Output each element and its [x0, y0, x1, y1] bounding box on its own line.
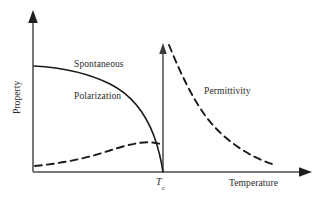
- tc-symbol: T: [156, 176, 162, 187]
- x-axis-arrowhead: [299, 167, 312, 177]
- curie-temperature-line: [159, 43, 167, 172]
- y-axis-arrowhead: [28, 10, 38, 23]
- x-axis-label: Temperature: [229, 178, 278, 189]
- annotation-spontaneous-polarization: Spontaneous Polarization: [74, 38, 124, 123]
- annotation-spontaneous-line2: Polarization: [74, 91, 124, 102]
- y-axis: [28, 10, 38, 172]
- tick-label-curie-temperature: Tc: [156, 176, 165, 191]
- annotation-permittivity: Permittivity: [204, 86, 251, 97]
- tc-subscript: c: [162, 184, 165, 192]
- plot-canvas: [0, 0, 324, 200]
- x-axis: [33, 167, 312, 177]
- curve-permittivity-below-tc: [35, 142, 163, 166]
- y-axis-label: Property: [12, 64, 23, 130]
- annotation-spontaneous-line1: Spontaneous: [74, 59, 124, 70]
- figure-container: Spontaneous Polarization Permittivity Te…: [0, 0, 324, 200]
- curie-line-arrowhead: [159, 43, 167, 54]
- curve-permittivity-above-tc: [169, 45, 272, 164]
